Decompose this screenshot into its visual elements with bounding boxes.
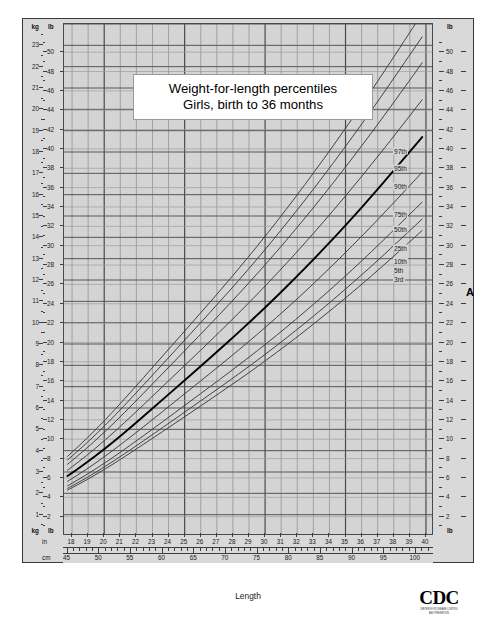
y-tick-kg-19: 19 [32, 126, 39, 133]
x-tick-cm-66 [200, 548, 201, 551]
growth-chart-frame: kg kg 1234567891011121314151617181920212… [22, 18, 474, 563]
x-tick-cm-52 [111, 548, 112, 551]
y-tick-lb-6: 6 [47, 473, 51, 480]
cdc-logo: CDC CENTERS FOR DISEASE CONTROL AND PREV… [408, 588, 470, 614]
x-tick-cm-68 [212, 548, 213, 551]
x-axis-cm-unit: cm [42, 554, 50, 561]
y-axis-kg-unit-top: kg [32, 23, 39, 30]
y-tick-lb-right-22: 22 [446, 319, 453, 326]
y-tick-lb-26: 26 [47, 280, 54, 287]
y-tick-lb-14: 14 [47, 396, 54, 403]
y-axis-kg-unit-bottom: kg [32, 526, 39, 533]
x-tick-cm-69 [219, 548, 220, 551]
x-tick-cm-57 [143, 548, 144, 551]
x-label-cm-90: 90 [348, 554, 355, 561]
x-tick-cm-81 [295, 548, 296, 551]
chart-title-line2: Girls, birth to 36 months [183, 97, 323, 113]
x-label-cm-85: 85 [316, 554, 323, 561]
y-tick-lb-46: 46 [47, 86, 54, 93]
chart-title-box: Weight-for-length percentiles Girls, bir… [133, 74, 373, 120]
y-tick-kg-15: 15 [32, 212, 39, 219]
y-tick-kg-14: 14 [32, 233, 39, 240]
y-tick-kg-23: 23 [32, 41, 39, 48]
x-tick-cm-58 [149, 548, 150, 551]
x-label-cm-55: 55 [126, 554, 133, 561]
x-tick-cm-78 [276, 548, 277, 551]
y-tick-lb-right-16: 16 [446, 377, 453, 384]
y-tick-lb-right-48: 48 [446, 67, 453, 74]
x-label-cm-80: 80 [285, 554, 292, 561]
y-tick-lb-right-12: 12 [446, 415, 453, 422]
chart-title-line1: Weight-for-length percentiles [169, 81, 337, 97]
y-tick-lb-right-2: 2 [446, 512, 450, 519]
y-tick-lb-42: 42 [47, 125, 54, 132]
y-tick-lb-40: 40 [47, 144, 54, 151]
y-tick-lb-right-26: 26 [446, 280, 453, 287]
y-tick-lb-right-4: 4 [446, 493, 450, 500]
x-tick-cm-51 [105, 548, 106, 551]
x-axis-cm-labels: 4550556065707580859095100 [63, 537, 433, 546]
y-tick-lb-right-24: 24 [446, 299, 453, 306]
y-tick-lb-right-20: 20 [446, 338, 453, 345]
y-tick-lb-8: 8 [47, 454, 51, 461]
x-axis-length-ruler: in cm 1819202122232425262728293031323334… [63, 537, 433, 563]
y-tick-lb-30: 30 [47, 241, 54, 248]
y-tick-lb-48: 48 [47, 67, 54, 74]
x-tick-cm-77 [269, 548, 270, 551]
y-tick-kg-18: 18 [32, 148, 39, 155]
y-axis-lb-unit-top: lb [48, 23, 54, 30]
x-tick-cm-92 [364, 548, 365, 551]
y-tick-lb-44: 44 [47, 106, 54, 113]
y-tick-lb-38: 38 [47, 164, 54, 171]
x-tick-cm-74 [250, 548, 251, 551]
y-tick-kg-13: 13 [32, 254, 39, 261]
percentile-label-75th: 75th [393, 211, 408, 218]
x-tick-cm-62 [174, 548, 175, 551]
y-tick-lb-right-44: 44 [446, 106, 453, 113]
ruler-divider-2 [63, 553, 433, 554]
percentile-legend: 97th95th90th75th50th25th10th5th3rd [385, 37, 425, 557]
cdc-wordmark: CDC [408, 588, 470, 607]
percentile-label-95th: 95th [393, 165, 408, 172]
y-tick-lb-right-40: 40 [446, 144, 453, 151]
y-tick-kg-22: 22 [32, 62, 39, 69]
y-tick-lb-18: 18 [47, 357, 54, 364]
y-tick-lb-28: 28 [47, 261, 54, 268]
x-tick-cm-83 [307, 548, 308, 551]
x-tick-cm-56 [136, 548, 137, 551]
x-tick-cm-47 [79, 548, 80, 551]
y-tick-lb-right-8: 8 [446, 454, 450, 461]
chart-page: kg kg 1234567891011121314151617181920212… [0, 0, 494, 625]
x-tick-cm-93 [371, 548, 372, 551]
x-tick-cm-102 [428, 548, 429, 551]
x-tick-cm-82 [301, 548, 302, 551]
ruler-divider [63, 547, 433, 548]
y-tick-lb-22: 22 [47, 319, 54, 326]
y-tick-kg-10: 10 [32, 318, 39, 325]
x-tick-cm-48 [86, 548, 87, 551]
y-tick-kg-20: 20 [32, 105, 39, 112]
x-tick-cm-63 [181, 548, 182, 551]
y-axis-kg: kg kg 1234567891011121314151617181920212… [23, 23, 43, 535]
x-label-cm-50: 50 [95, 554, 102, 561]
x-tick-cm-84 [314, 548, 315, 551]
x-tick-cm-67 [206, 548, 207, 551]
x-tick-cm-54 [124, 548, 125, 551]
y-tick-kg-16: 16 [32, 190, 39, 197]
x-tick-cm-61 [168, 548, 169, 551]
y-tick-lb-right-14: 14 [446, 396, 453, 403]
x-tick-cm-91 [358, 548, 359, 551]
x-tick-cm-64 [187, 548, 188, 551]
x-tick-cm-49 [92, 548, 93, 551]
y-tick-lb-right-38: 38 [446, 164, 453, 171]
x-tick-cm-89 [345, 548, 346, 551]
y-tick-lb-right-50: 50 [446, 48, 453, 55]
figure-letter: A [466, 286, 474, 298]
x-tick-cm-72 [238, 548, 239, 551]
percentile-label-90th: 90th [393, 183, 408, 190]
x-label-cm-75: 75 [253, 554, 260, 561]
percentile-label-25th: 25th [393, 245, 408, 252]
y-tick-lb-34: 34 [47, 203, 54, 210]
y-tick-lb-right-32: 32 [446, 222, 453, 229]
x-tick-cm-73 [244, 548, 245, 551]
